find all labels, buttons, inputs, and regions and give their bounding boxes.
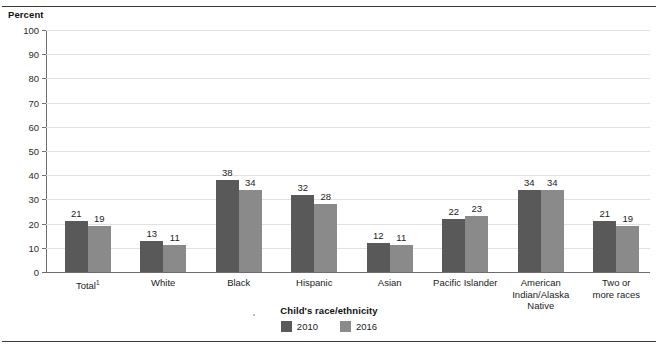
legend-label: 2010 <box>297 321 318 332</box>
bar-value-label: 34 <box>524 177 535 188</box>
y-tick-label-30: 30 <box>28 194 39 205</box>
bar-2010[interactable]: 32 <box>291 195 314 272</box>
chart-plot-area: 0102030405060708090100 2119Total11311Whi… <box>46 30 650 272</box>
bar-group: 2119Total1 <box>65 30 111 272</box>
category-label-line: American <box>512 277 569 289</box>
category-label-line: Asian <box>378 277 402 289</box>
bar-value-label: 19 <box>94 213 105 224</box>
y-tick-label-50: 50 <box>28 146 39 157</box>
bar-2010[interactable]: 38 <box>216 180 239 272</box>
category-label: Pacific Islander <box>433 277 497 289</box>
bar-value-label: 21 <box>599 208 610 219</box>
category-label: Asian <box>378 277 402 289</box>
bar-value-label: 11 <box>396 232 406 243</box>
bar-2016[interactable]: 11 <box>163 245 186 272</box>
y-tick-label-40: 40 <box>28 170 39 181</box>
bar-2010[interactable]: 12 <box>367 243 390 272</box>
bar-2016[interactable]: 19 <box>616 226 639 272</box>
bar-2010[interactable]: 21 <box>65 221 88 272</box>
category-label: Two ormore races <box>592 277 640 300</box>
bar-value-label: 22 <box>448 206 459 217</box>
bar-group: 1211Asian <box>367 30 413 272</box>
bar-group: 1311White <box>140 30 186 272</box>
bar-value-label: 34 <box>547 177 558 188</box>
category-label-line: White <box>151 277 175 289</box>
y-tick-10 <box>42 248 46 249</box>
bar-value-label: 38 <box>222 167 233 178</box>
category-label-line: Pacific Islander <box>433 277 497 289</box>
bar-value-label: 34 <box>245 177 256 188</box>
y-tick-50 <box>42 151 46 152</box>
y-tick-label-10: 10 <box>28 242 39 253</box>
y-tick-30 <box>42 199 46 200</box>
bar-2016[interactable]: 34 <box>541 190 564 272</box>
bar-value-label: 11 <box>170 232 180 243</box>
y-tick-100 <box>42 30 46 31</box>
category-label: Total1 <box>76 277 100 292</box>
category-label-line: Indian/Alaska <box>512 289 569 301</box>
chart-legend: Child's race/ethnicity 20102016 <box>0 305 658 332</box>
bar-value-label: 21 <box>71 208 82 219</box>
y-tick-60 <box>42 127 46 128</box>
y-tick-70 <box>42 103 46 104</box>
y-tick-90 <box>42 54 46 55</box>
y-tick-80 <box>42 78 46 79</box>
bar-group: 2223Pacific Islander <box>442 30 488 272</box>
x-axis-title: Child's race/ethnicity <box>0 305 658 316</box>
legend-item-2010[interactable]: 2010 <box>281 321 318 332</box>
bar-group: 2119Two ormore races <box>593 30 639 272</box>
category-label-line: Total1 <box>76 277 100 292</box>
legend-label: 2016 <box>356 321 377 332</box>
bar-2016[interactable]: 34 <box>239 190 262 272</box>
gridline-0 <box>46 272 650 273</box>
bar-2010[interactable]: 13 <box>140 241 163 272</box>
y-tick-label-70: 70 <box>28 97 39 108</box>
y-tick-40 <box>42 175 46 176</box>
category-label-line: more races <box>592 289 640 301</box>
bar-value-label: 32 <box>297 182 308 193</box>
legend-item-list: 20102016 <box>0 321 658 332</box>
y-tick-label-20: 20 <box>28 218 39 229</box>
bar-2016[interactable]: 28 <box>314 204 337 272</box>
y-tick-label-100: 100 <box>23 25 39 36</box>
top-divider-rule <box>2 6 656 7</box>
category-label: White <box>151 277 175 289</box>
bar-value-label: 19 <box>622 213 633 224</box>
bar-group: 3434AmericanIndian/AlaskaNative <box>518 30 564 272</box>
bar-group: 3834Black <box>216 30 262 272</box>
bar-2016[interactable]: 23 <box>465 216 488 272</box>
bar-2010[interactable]: 21 <box>593 221 616 272</box>
category-label: Hispanic <box>296 277 332 289</box>
bar-2010[interactable]: 34 <box>518 190 541 272</box>
legend-item-2016[interactable]: 2016 <box>340 321 377 332</box>
bar-value-label: 13 <box>146 228 157 239</box>
category-label-line: Hispanic <box>296 277 332 289</box>
y-tick-label-60: 60 <box>28 121 39 132</box>
bar-2016[interactable]: 11 <box>390 245 413 272</box>
legend-swatch-icon <box>281 321 292 332</box>
bar-value-label: 23 <box>471 203 482 214</box>
legend-swatch-icon <box>340 321 351 332</box>
y-tick-0 <box>42 272 46 273</box>
bar-value-label: 28 <box>320 191 331 202</box>
bar-value-label: 12 <box>373 230 384 241</box>
y-tick-label-90: 90 <box>28 49 39 60</box>
y-tick-label-80: 80 <box>28 73 39 84</box>
category-label-line: Black <box>227 277 250 289</box>
category-label: Black <box>227 277 250 289</box>
bar-2016[interactable]: 19 <box>88 226 111 272</box>
bar-group: 3228Hispanic <box>291 30 337 272</box>
y-tick-label-0: 0 <box>34 267 39 278</box>
y-axis-title: Percent <box>8 9 44 20</box>
scan-artifact-speck <box>253 314 255 316</box>
bar-2010[interactable]: 22 <box>442 219 465 272</box>
category-label-line: Two or <box>592 277 640 289</box>
y-tick-20 <box>42 224 46 225</box>
bottom-divider-rule <box>2 341 656 342</box>
